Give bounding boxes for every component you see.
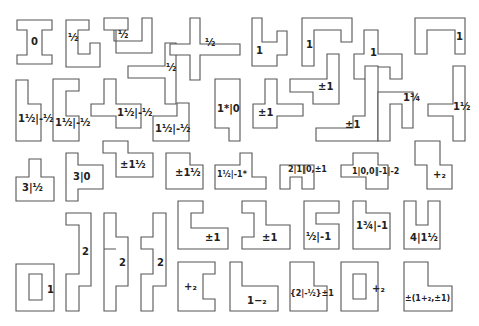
tile-label: ±1	[205, 233, 220, 243]
tile-outline	[16, 159, 54, 201]
tile-label: 1¾|-1	[356, 221, 388, 231]
tile-label: 1	[306, 40, 313, 50]
tile-label: ±(1+₂,±1)	[405, 294, 450, 304]
tile-outline	[170, 18, 240, 80]
tile-label: 2	[157, 258, 164, 268]
tile-label: 3|0	[73, 172, 91, 182]
tile-label: 1	[370, 48, 377, 58]
tile-label: ±1	[318, 82, 333, 92]
tile-label: ½	[166, 63, 176, 73]
tile-label: 0	[31, 37, 38, 47]
tile-label: ±1½	[120, 160, 146, 170]
tile-label: 1−₂	[247, 296, 267, 306]
tile-r2c2	[53, 79, 79, 141]
tile-label: 2	[119, 258, 126, 268]
tile-label: +₂	[184, 282, 197, 292]
tile-outline	[415, 141, 452, 189]
tile-outline	[153, 103, 189, 141]
tile-label: ±1	[345, 120, 360, 130]
tile-outline	[91, 79, 141, 128]
tile-label: ½	[205, 38, 215, 48]
tile-r2c4	[153, 103, 189, 141]
tile-r2c1	[16, 80, 41, 141]
tile-r4c1	[66, 213, 91, 311]
tile-r3c1	[16, 159, 54, 201]
tile-r1c2	[66, 20, 100, 67]
tile-label: 3|½	[22, 183, 43, 193]
tile-outline	[16, 80, 41, 141]
tile-label: 4|1½	[410, 233, 438, 243]
tile-label: 1½	[453, 102, 470, 112]
tile-r5c1	[178, 201, 228, 249]
tile-outline	[252, 18, 287, 66]
tile-outline	[178, 201, 228, 249]
polyomino-diagram	[0, 0, 479, 326]
tile-r6c3	[290, 262, 327, 311]
tile-label: ±1	[258, 108, 273, 118]
tile-label: ½	[118, 30, 128, 40]
tile-outline	[53, 79, 79, 141]
tile-hole	[353, 274, 366, 299]
tile-label: 1½|-1*	[217, 170, 247, 180]
tile-label: ±1	[262, 233, 277, 243]
tile-label: +₂	[372, 284, 385, 294]
tile-label: 1½|-½	[18, 114, 53, 124]
tile-label: 2	[82, 247, 89, 257]
tile-label: 2|1‖0,±1	[288, 165, 327, 175]
tile-label: 1¾	[403, 93, 420, 103]
tile-label: ½	[68, 33, 78, 43]
tile-label: {2|-½}±1	[290, 289, 334, 299]
tile-label: 1	[256, 46, 263, 56]
tile-outline	[66, 20, 100, 67]
tile-r1c5	[170, 18, 240, 80]
tile-hole	[29, 274, 42, 300]
tile-r3c8	[415, 141, 452, 189]
tile-label: 1½|-½	[55, 118, 90, 128]
tile-label: 1½|-½	[155, 124, 190, 134]
tile-outline	[290, 262, 327, 311]
tile-label: 1½|-½	[117, 108, 152, 118]
tile-label: ½|-1	[306, 232, 331, 242]
tile-label: ±1½	[175, 168, 201, 178]
tile-label: 1|0,0‖-1|-2	[352, 167, 399, 177]
tile-label: 1	[456, 32, 463, 42]
tile-r2c3	[91, 79, 141, 128]
tile-label: +₂	[433, 170, 446, 180]
tile-label: 1	[47, 285, 54, 295]
tile-r1c6	[252, 18, 287, 66]
tile-label: 1*|0	[217, 104, 240, 114]
tile-outline	[66, 213, 91, 311]
